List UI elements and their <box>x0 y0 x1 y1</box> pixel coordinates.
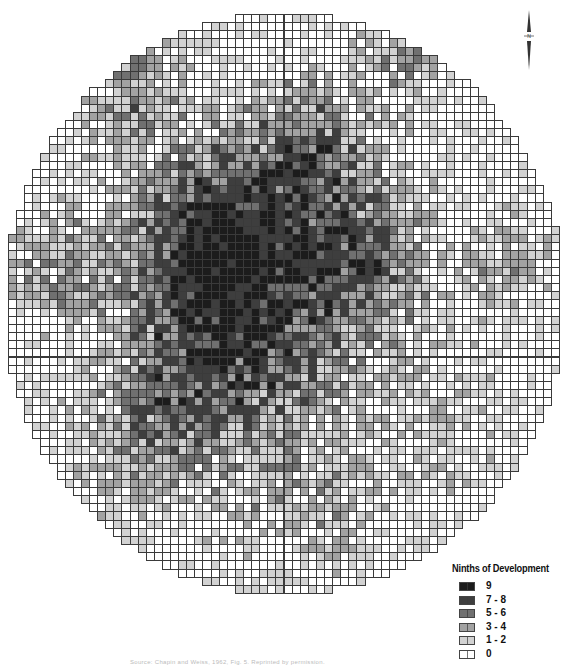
legend-swatch <box>459 596 475 605</box>
legend-label: 0 <box>486 648 492 659</box>
legend-item: 5 - 6 <box>452 607 571 621</box>
legend-item: 1 - 2 <box>452 634 571 648</box>
grid-cell <box>437 536 446 545</box>
grid-cell <box>494 479 503 488</box>
grid-cell <box>397 560 406 569</box>
legend-swatch <box>459 650 475 659</box>
legend-item: 0 <box>452 648 571 662</box>
north-arrow-icon: N <box>522 10 536 70</box>
legend-item: 7 - 8 <box>452 594 571 608</box>
legend-label: 3 - 4 <box>486 621 506 632</box>
source-caption: Source: Chapin and Weiss, 1962, Fig. 5. … <box>130 659 325 665</box>
legend-swatch <box>459 582 475 591</box>
legend-label: 1 - 2 <box>486 634 506 645</box>
grid-cell <box>470 511 479 520</box>
grid-cell <box>486 495 495 504</box>
grid-cell <box>535 414 544 423</box>
grid-cell <box>502 471 511 480</box>
grid-cell <box>543 397 552 406</box>
legend-item: 3 - 4 <box>452 621 571 635</box>
grid-cell <box>518 446 527 455</box>
grid-cell <box>510 463 519 472</box>
legend-label: 9 <box>486 580 492 591</box>
legend-item: 9 <box>452 580 571 594</box>
svg-text:N: N <box>527 33 531 39</box>
legend-label: 7 - 8 <box>486 594 506 605</box>
legend-swatch <box>459 636 475 645</box>
grid-cell <box>454 520 463 529</box>
legend-label: 5 - 6 <box>486 607 506 618</box>
grid-cell <box>324 585 333 594</box>
grid-cell <box>413 552 422 561</box>
grid-cell <box>527 430 536 439</box>
grid-cell <box>551 365 560 374</box>
legend-swatch <box>459 609 475 618</box>
grid-cell <box>381 569 390 578</box>
grid-cell <box>356 577 365 586</box>
legend: Ninths of Development 97 - 85 - 63 - 41 … <box>452 562 571 661</box>
grid-cell <box>429 544 438 553</box>
grid-cell <box>478 503 487 512</box>
legend-title: Ninths of Development <box>452 562 557 574</box>
legend-swatch <box>459 623 475 632</box>
development-grid-map <box>0 0 571 600</box>
grid-cell <box>446 528 455 537</box>
